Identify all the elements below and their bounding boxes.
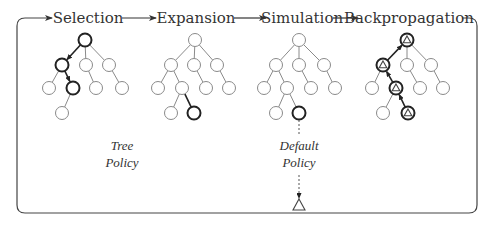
tree-node — [189, 34, 202, 47]
mcts-diagram-canvas: Selection Expansion Simulation Backpropa… — [0, 0, 492, 225]
tree-node — [305, 82, 318, 95]
tree-edge — [90, 45, 105, 61]
tree-node — [165, 59, 178, 72]
tree-edge — [185, 94, 191, 107]
tree-edge — [304, 45, 320, 61]
terminal-state-triangle-icon — [293, 199, 305, 210]
tree-edge — [279, 71, 284, 82]
tree-node — [401, 59, 414, 72]
tree-node-highlighted — [188, 107, 201, 120]
tree-edge-arrow — [67, 45, 81, 60]
tree-selection — [43, 34, 129, 120]
tree-node — [293, 34, 306, 47]
tree-node — [270, 59, 283, 72]
mcts-diagram: Selection Expansion Simulation Backpropa… — [0, 0, 492, 225]
tree-edge-arrow — [399, 95, 405, 107]
tree-edge — [89, 71, 94, 82]
default-policy-label-line2: Policy — [281, 155, 315, 170]
tree-edge — [412, 45, 427, 61]
tree-edge — [302, 71, 308, 82]
tree-node — [329, 82, 342, 95]
tree-node — [281, 82, 294, 95]
tree-node — [223, 82, 236, 95]
tree-policy-label-line2: Policy — [104, 155, 138, 170]
tree-node — [152, 82, 165, 95]
tree-node — [56, 107, 69, 120]
tree-edge — [65, 94, 71, 107]
tree-edge — [267, 71, 273, 82]
tree-node-highlighted — [293, 107, 306, 120]
tree-node — [258, 82, 271, 95]
tree-node — [211, 59, 224, 72]
tree-node — [43, 82, 56, 95]
tree-node-highlighted — [79, 34, 92, 47]
tree-edge — [375, 71, 380, 82]
tree-edge — [112, 71, 119, 83]
tree-simulation — [258, 34, 342, 120]
stage-label-backpropagation: Backpropagation — [344, 9, 474, 27]
tree-edge — [279, 94, 285, 107]
tree-edge — [52, 71, 59, 83]
policy-labels: Tree Policy Default Policy — [104, 138, 318, 170]
tree-node — [437, 82, 450, 95]
tree-edge — [176, 45, 191, 61]
tree-node — [366, 82, 379, 95]
tree-node — [176, 82, 189, 95]
stage-labels: Selection Expansion Simulation Backpropa… — [53, 9, 475, 27]
tree-node — [90, 82, 103, 95]
tree-node-highlighted — [67, 82, 80, 95]
tree-backpropagation — [366, 34, 450, 120]
tree-node — [425, 59, 438, 72]
stage-label-expansion: Expansion — [157, 9, 236, 27]
tree-edge — [174, 71, 179, 82]
tree-edge — [199, 45, 212, 60]
stage-label-selection: Selection — [53, 9, 124, 27]
tree-node-highlighted — [56, 59, 69, 72]
tree-edge — [327, 71, 332, 82]
tree-node — [414, 82, 427, 95]
trees — [43, 34, 450, 120]
tree-node — [293, 59, 306, 72]
tree-edge-arrow — [387, 72, 393, 83]
tree-node — [165, 107, 178, 120]
tree-node — [270, 107, 283, 120]
tree-node — [103, 59, 116, 72]
tree-node — [377, 107, 390, 120]
stage-label-simulation: Simulation — [261, 9, 344, 27]
tree-node — [200, 82, 213, 95]
tree-node — [116, 82, 129, 95]
tree-node — [188, 59, 201, 72]
tree-edge — [161, 71, 168, 83]
tree-expansion — [152, 34, 236, 120]
tree-edge — [197, 71, 203, 82]
tree-edge — [174, 94, 180, 107]
tree-edge — [410, 71, 417, 83]
tree-edge — [434, 71, 440, 82]
tree-edge-arrow — [65, 71, 70, 81]
tree-edge-arrow — [388, 45, 402, 60]
tree-edge — [220, 71, 226, 82]
tree-policy-label-line1: Tree — [111, 138, 134, 153]
default-policy-label-line1: Default — [279, 138, 319, 153]
tree-node — [80, 59, 93, 72]
tree-node — [318, 59, 331, 72]
tree-edge — [280, 45, 294, 60]
tree-edge — [290, 94, 296, 107]
tree-edge — [386, 94, 393, 107]
